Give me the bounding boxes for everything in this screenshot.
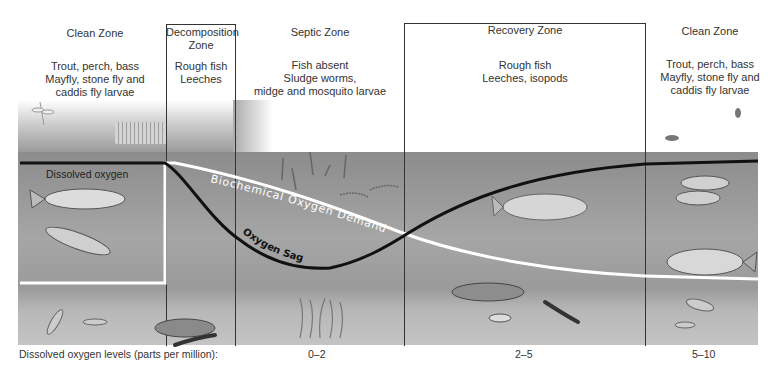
trout-icon: [43, 222, 112, 260]
bod-curve-label: Biochemical Oxygen Demand: [209, 172, 388, 235]
do-levels-label: Dissolved oxygen levels (parts per milli…: [19, 348, 218, 360]
perch-icon: [676, 191, 720, 205]
carp-icon: [492, 194, 587, 220]
dragonfly-icon: [32, 102, 54, 125]
perch-icon: [681, 176, 729, 190]
dissolved-oxygen-curve: [20, 161, 758, 268]
mosquito-larvae-icon: [282, 152, 398, 197]
catfish-icon: [452, 283, 524, 301]
do-level-recovery: 2–5: [515, 348, 533, 360]
mayfly-larva-icon: [675, 297, 715, 328]
trout-icon: [30, 189, 125, 209]
catfish-icon: [155, 319, 215, 337]
fly-icon: [735, 108, 741, 118]
curves-layer: Biochemical Oxygen Demand Oxygen Sag Dis…: [0, 0, 777, 381]
isopod-icon: [489, 314, 511, 322]
bod-curve: [20, 163, 758, 283]
do-level-septic: 0–2: [308, 348, 326, 360]
dissolved-oxygen-label: Dissolved oxygen: [46, 168, 128, 180]
mayfly-larva-icon: [45, 308, 107, 336]
sludge-worms-icon: [300, 298, 343, 338]
fly-icon: [665, 135, 679, 141]
do-level-clean: 5–10: [692, 348, 715, 360]
leech-icon: [545, 302, 578, 322]
bass-icon: [667, 249, 757, 275]
